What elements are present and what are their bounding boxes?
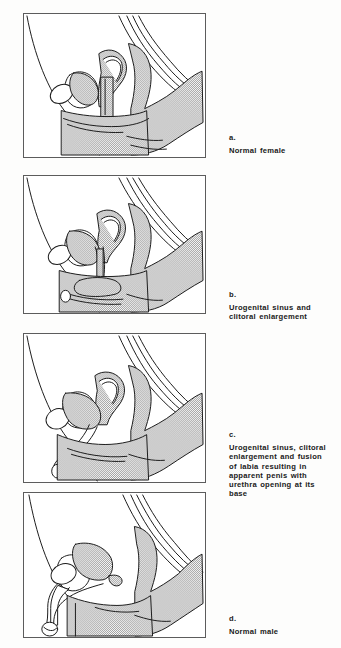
caption-a-letter: a. [229, 133, 341, 142]
caption-c-text: Urogenital sinus, clitoral enlargement a… [229, 443, 341, 498]
caption-b-letter: b. [229, 290, 341, 299]
caption-c-letter: c. [229, 430, 341, 439]
caption-d-text: Normal male [229, 627, 341, 636]
panel-b-illustration [24, 176, 205, 313]
caption-d-letter: d. [229, 614, 341, 623]
panel-d-normal-male [23, 492, 206, 638]
panel-a-illustration [24, 14, 205, 157]
caption-b-text: Urogenital sinus and clitoral enlargemen… [229, 303, 341, 321]
panel-d-illustration [24, 493, 205, 637]
panel-a-normal-female [23, 13, 206, 158]
panel-c-illustration [24, 334, 205, 482]
caption-d: d. Normal male [229, 614, 341, 636]
panel-b-urogenital-sinus [23, 175, 206, 314]
caption-a: a. Normal female [229, 133, 341, 155]
caption-a-text: Normal female [229, 146, 341, 155]
panel-c-fused-labia [23, 333, 206, 483]
figure-root: a. Normal female b. Urogenital sinus and… [0, 0, 341, 648]
caption-b: b. Urogenital sinus and clitoral enlarge… [229, 290, 341, 322]
caption-c: c. Urogenital sinus, clitoral enlargemen… [229, 430, 341, 498]
